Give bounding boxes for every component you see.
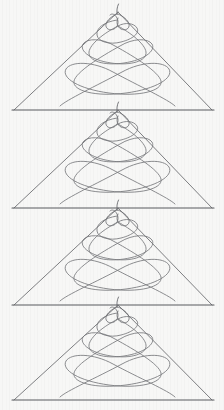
inscribed-spiral-curve — [60, 118, 175, 204]
inscribed-spiral-curve — [60, 216, 175, 301]
motif-triangle-3 — [12, 200, 214, 305]
inscribed-spiral-curve — [60, 313, 175, 397]
spiral-triangle-artwork — [0, 0, 224, 410]
triangle-right-edge — [118, 305, 212, 400]
figure-canvas — [0, 0, 224, 410]
triangle-left-edge — [14, 305, 118, 400]
motif-triangle-2 — [12, 102, 214, 208]
motif-triangle-4 — [12, 297, 214, 400]
motif-triangle-1 — [12, 4, 214, 110]
inscribed-spiral-curve — [60, 20, 175, 106]
